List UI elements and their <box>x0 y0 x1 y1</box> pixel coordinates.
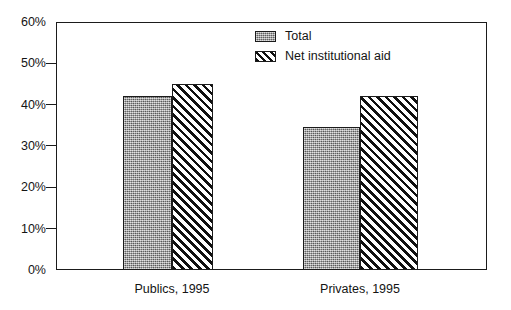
legend-item-total: Total <box>255 28 391 45</box>
x-axis-label: Privates, 1995 <box>320 283 400 296</box>
legend-label-net-institutional-aid: Net institutional aid <box>285 50 391 63</box>
diagonal-hatch-swatch-icon <box>255 51 276 62</box>
legend-label-total: Total <box>285 30 311 43</box>
y-axis-tick <box>46 145 56 146</box>
y-axis-label: 0% <box>2 264 46 277</box>
y-axis-label: 40% <box>2 98 46 111</box>
gray-stipple-swatch-icon <box>255 31 276 42</box>
y-axis-tick <box>46 104 56 105</box>
chart-legend: Total Net institutional aid <box>255 28 391 68</box>
y-axis-label: 20% <box>2 181 46 194</box>
y-axis-tick <box>46 187 56 188</box>
legend-item-net-institutional-aid: Net institutional aid <box>255 48 391 65</box>
bar-chart: 60%50%40%30%20%10%0% Publics, 1995Privat… <box>0 0 511 310</box>
y-axis-tick <box>46 63 56 64</box>
y-axis-tick <box>46 228 56 229</box>
y-axis-label: 60% <box>2 16 46 29</box>
y-axis-label: 50% <box>2 57 46 70</box>
y-axis-label: 10% <box>2 222 46 235</box>
x-axis-label: Publics, 1995 <box>134 283 209 296</box>
y-axis-label: 30% <box>2 140 46 153</box>
